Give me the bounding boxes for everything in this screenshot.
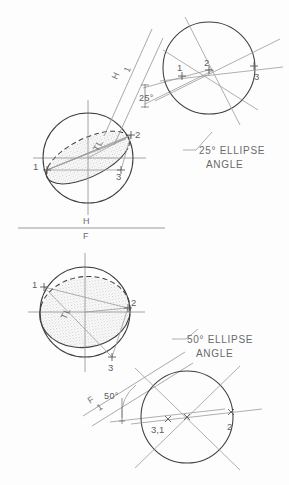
bottom-right-point-ticks [165, 409, 234, 422]
top-angle-ray-b [145, 70, 214, 104]
bottom-fold-line-group: F 1 [83, 352, 193, 426]
top-right-construction-lines [155, 17, 283, 125]
bottom-left-point-2-label: 2 [131, 297, 136, 308]
bottom-left-point-1-label: 1 [32, 279, 37, 290]
top-caption-line2: ANGLE [206, 159, 243, 170]
top-right-point-2-label: 2 [204, 57, 209, 68]
bottom-right-circle-view: 3,1 2 [131, 366, 262, 470]
top-left-circle-view: 1 2 3 TL [33, 100, 146, 215]
bottom-left-circle-view: 1 2 3 TL [28, 253, 145, 373]
top-left-point-3-label: 3 [116, 171, 121, 182]
top-angle-value: 25° [139, 93, 154, 103]
bottom-caption-line1: 50° ELLIPSE [187, 334, 253, 345]
bottom-caption-group: 50° ELLIPSE ANGLE [172, 329, 253, 359]
bottom-right-construction-lines [131, 366, 262, 470]
top-left-point-1-label: 1 [33, 161, 38, 172]
bottom-right-point-2-label: 2 [227, 421, 232, 432]
top-fold-line-group: H 1 [104, 29, 163, 145]
top-caption-group: 25° ELLIPSE ANGLE [183, 132, 265, 170]
top-fold-upper-label: H [110, 71, 122, 81]
top-right-point-3-label: 3 [254, 71, 259, 82]
top-right-circle-view: 1 2 3 [155, 17, 283, 125]
f-label: F [83, 231, 89, 241]
bottom-left-point-3-label: 3 [108, 362, 113, 373]
h-f-fold-line: H F [18, 216, 165, 241]
bottom-right-point-31-label: 3,1 [151, 424, 164, 435]
engineering-drawing-sheet: 1 2 3 TL H 1 25° [0, 0, 289, 485]
bottom-angle-value: 50° [104, 391, 119, 401]
top-left-point-2-label: 2 [135, 129, 140, 140]
top-fold-lower-label: 1 [122, 65, 133, 74]
top-fold-line-a [104, 29, 152, 136]
bottom-caption-line2: ANGLE [196, 348, 233, 359]
top-right-point-1-label: 1 [177, 62, 182, 73]
bottom-angle-dimension: 50° [104, 385, 225, 424]
top-caption-line1: 25° ELLIPSE [199, 145, 265, 156]
drawing-canvas: 1 2 3 TL H 1 25° [0, 0, 289, 485]
h-label: H [83, 216, 90, 226]
